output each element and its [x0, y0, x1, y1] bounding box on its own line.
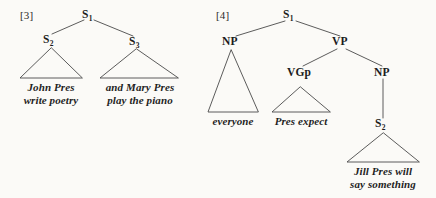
- node-s1-right-base: S: [283, 8, 290, 20]
- example-number-4: [4]: [216, 10, 229, 21]
- node-s2-embedded-base: S: [375, 117, 382, 129]
- node-s1-left: S1: [82, 9, 92, 21]
- branch-s1-vp: [296, 21, 340, 36]
- node-np-object: NP: [374, 67, 390, 79]
- branch-s1-s3: [94, 20, 133, 36]
- node-vp: VP: [332, 36, 348, 48]
- node-s1-right: S1: [283, 9, 293, 21]
- node-s1-right-subscript: 1: [290, 14, 294, 23]
- branch-s1-np: [236, 21, 285, 36]
- node-vgp: VGp: [287, 67, 311, 79]
- node-s1-left-base: S: [82, 8, 89, 20]
- node-s3-left: S3: [129, 36, 139, 48]
- terminal-pres-expect: Pres expect: [261, 116, 341, 127]
- node-s3-left-subscript: 3: [136, 41, 140, 50]
- terminal-and-mary-pres: and Mary Pres play the piano: [90, 82, 190, 106]
- node-s2-left: S2: [43, 34, 53, 46]
- terminal-john-pres-line1: John Pres: [27, 81, 74, 93]
- node-s2-embedded: S2: [375, 118, 385, 130]
- branch-vp-np: [346, 49, 382, 66]
- node-s1-left-subscript: 1: [89, 14, 93, 23]
- triangle-s2-embedded: [347, 133, 419, 162]
- terminal-and-mary-pres-line2: play the piano: [90, 95, 190, 106]
- terminal-jill-pres-will-line1: Jill Pres will: [354, 165, 412, 177]
- node-np-subject: NP: [222, 36, 238, 48]
- terminal-john-pres-line2: write poetry: [0, 95, 102, 106]
- node-s2-left-subscript: 2: [50, 39, 54, 48]
- triangle-s2: [20, 48, 82, 78]
- triangle-np-subject: [208, 50, 258, 112]
- triangle-s3: [100, 49, 178, 78]
- triangle-vgp: [272, 87, 330, 112]
- node-s3-left-base: S: [129, 35, 136, 47]
- branch-s1-s2: [52, 20, 84, 34]
- node-s2-left-base: S: [43, 33, 50, 45]
- branch-vp-vgp: [303, 49, 337, 66]
- terminal-and-mary-pres-line1: and Mary Pres: [106, 81, 175, 93]
- example-number-3: [3]: [20, 10, 33, 21]
- terminal-jill-pres-will: Jill Pres will say something: [333, 166, 433, 190]
- terminal-jill-pres-will-line2: say something: [333, 179, 433, 190]
- syntax-tree-figure: [3] [4] S1 S2 S3 John Pres write poetry …: [0, 0, 436, 198]
- terminal-john-pres: John Pres write poetry: [0, 82, 102, 106]
- node-s2-embedded-subscript: 2: [382, 123, 386, 132]
